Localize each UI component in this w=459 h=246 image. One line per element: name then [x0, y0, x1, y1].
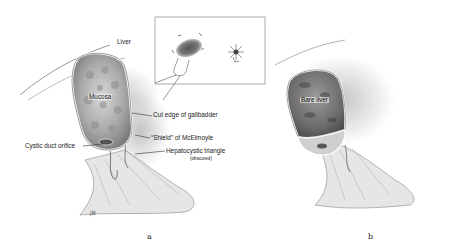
label-cystic-duct: Cystic duct orifice — [25, 143, 75, 149]
panel-caption-a: a — [147, 232, 152, 241]
panel-b-drawing — [275, 40, 414, 208]
label-hepatocystic: Hepatocystic triangle — [166, 148, 225, 154]
artist-signature: JB — [89, 209, 96, 217]
figure: JB — [0, 0, 459, 246]
illustration: JB — [0, 0, 459, 246]
label-mucosa: Mucosa — [88, 94, 112, 100]
panel-caption-b: b — [368, 232, 373, 241]
label-cut-edge: Cut edge of gallbadder — [153, 112, 218, 118]
label-liver: Liver — [117, 39, 131, 45]
label-obscured: (obscured) — [190, 157, 212, 162]
inset-box — [155, 17, 265, 100]
label-shield: “Shield” of McElmoyle — [151, 135, 213, 141]
label-bare-liver: Bare liver — [300, 97, 329, 103]
